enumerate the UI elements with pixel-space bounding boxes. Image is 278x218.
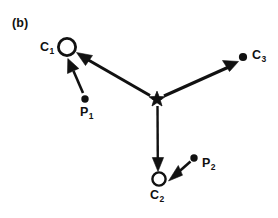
node-label-c3-subscript: 3	[262, 54, 267, 64]
arrow-p2-to-c2	[169, 162, 191, 182]
node-label-p2: P2	[202, 157, 215, 170]
node-label-c1-subscript: 1	[50, 46, 55, 56]
figure-panel-b: (b) C1 C2 C3 P1 P2	[0, 0, 278, 218]
node-label-p1-subscript: 1	[89, 111, 94, 121]
node-label-c2-main: C	[150, 188, 159, 202]
node-label-p2-subscript: 2	[211, 162, 216, 172]
node-marker-center-star	[149, 91, 165, 106]
arrow-center-to-c3	[164, 61, 239, 97]
node-marker-c1	[58, 38, 75, 55]
node-marker-c2	[152, 172, 165, 185]
node-label-c2-subscript: 2	[160, 194, 165, 204]
node-marker-c3	[239, 53, 247, 61]
node-marker-p2	[190, 154, 197, 161]
node-label-p1-main: P	[80, 105, 88, 119]
node-label-c1-main: C	[40, 40, 49, 54]
node-label-c3-main: C	[252, 48, 261, 62]
arrow-p1-to-c1	[68, 59, 84, 94]
node-label-c2: C2	[150, 189, 164, 202]
node-label-p1: P1	[80, 106, 93, 119]
panel-label: (b)	[12, 17, 28, 30]
node-label-c3: C3	[252, 49, 266, 62]
node-marker-p1	[81, 95, 88, 102]
node-label-c1: C1	[40, 41, 54, 54]
figure-canvas	[0, 0, 278, 218]
node-label-p2-main: P	[202, 156, 210, 170]
arrow-center-to-c2	[152, 106, 163, 172]
arrow-center-to-c1	[77, 53, 151, 96]
